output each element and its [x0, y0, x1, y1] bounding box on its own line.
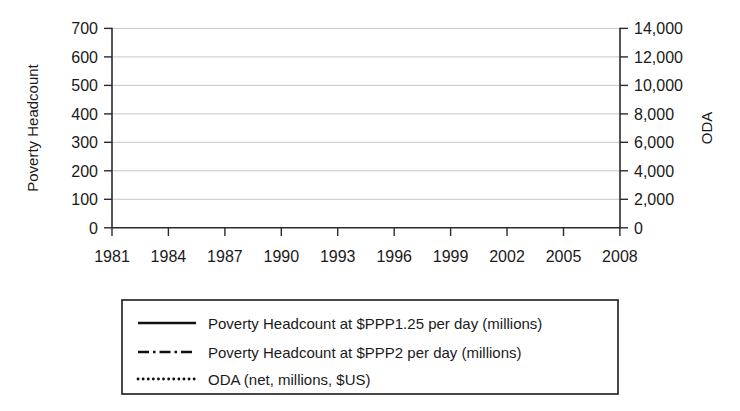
poverty-oda-line-chart: 700 600 500 400 300 200 100 0 14,000 12,…	[0, 0, 740, 411]
x-tick-label-1984: 1984	[151, 248, 187, 265]
x-tick-label-1981: 1981	[94, 248, 130, 265]
right-tick-label-4000: 4,000	[634, 163, 674, 180]
x-tick-label-1999: 1999	[433, 248, 469, 265]
left-tick-label-200: 200	[71, 163, 98, 180]
x-tick-label-2008: 2008	[602, 248, 638, 265]
left-tick-label-100: 100	[71, 191, 98, 208]
x-tick-label-1993: 1993	[320, 248, 356, 265]
right-tick-label-8000: 8,000	[634, 106, 674, 123]
left-tick-label-500: 500	[71, 77, 98, 94]
right-tick-label-12000: 12,000	[634, 49, 683, 66]
right-axis-title: ODA	[698, 112, 715, 145]
x-tick-label-2005: 2005	[546, 248, 582, 265]
left-tick-label-600: 600	[71, 49, 98, 66]
legend: Poverty Headcount at $PPP1.25 per day (m…	[122, 300, 618, 394]
left-axis-title: Poverty Headcount	[24, 63, 41, 191]
legend-label-ppp2: Poverty Headcount at $PPP2 per day (mill…	[208, 344, 521, 361]
right-tick-label-0: 0	[634, 220, 643, 237]
left-tick-label-300: 300	[71, 134, 98, 151]
x-tick-label-1996: 1996	[376, 248, 412, 265]
right-tick-label-14000: 14,000	[634, 20, 683, 37]
left-tick-label-700: 700	[71, 20, 98, 37]
x-tick-label-1990: 1990	[264, 248, 300, 265]
right-tick-label-2000: 2,000	[634, 191, 674, 208]
right-tick-label-10000: 10,000	[634, 77, 683, 94]
left-tick-label-0: 0	[89, 220, 98, 237]
x-tick-label-1987: 1987	[207, 248, 243, 265]
legend-label-ppp125: Poverty Headcount at $PPP1.25 per day (m…	[208, 315, 542, 332]
x-tick-label-2002: 2002	[489, 248, 525, 265]
legend-label-oda: ODA (net, millions, $US)	[208, 371, 371, 388]
left-tick-label-400: 400	[71, 106, 98, 123]
right-tick-label-6000: 6,000	[634, 134, 674, 151]
